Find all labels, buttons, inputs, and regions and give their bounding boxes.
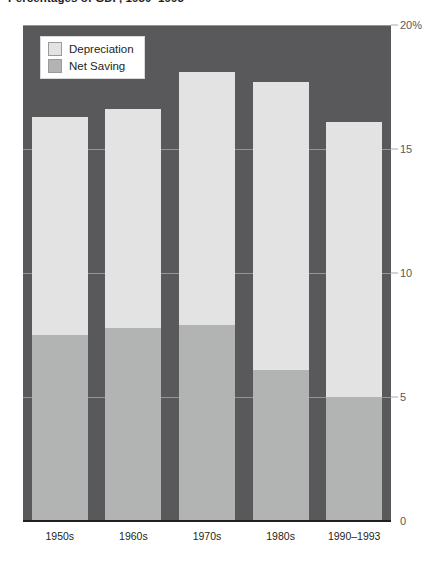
bar-segment-depreciation[interactable]	[32, 117, 88, 335]
bar-segment-net-saving[interactable]	[105, 328, 161, 521]
bar-segment-depreciation[interactable]	[253, 82, 309, 370]
bar-segment-depreciation[interactable]	[326, 122, 382, 397]
legend-item-depreciation: Depreciation	[48, 42, 134, 56]
ytick-label-5: 5	[400, 391, 406, 403]
page-title: Percentages of GDP, 1950–1993	[8, 0, 308, 6]
xtick-label-1950s: 1950s	[23, 530, 97, 542]
ytick-mark-20	[391, 25, 398, 26]
bar-1970s[interactable]	[179, 72, 235, 521]
bar-segment-depreciation[interactable]	[105, 109, 161, 327]
bar-1960s[interactable]	[105, 109, 161, 521]
legend-label-net-saving: Net Saving	[69, 60, 125, 73]
bar-segment-net-saving[interactable]	[326, 397, 382, 521]
chart-legend: Depreciation Net Saving	[40, 36, 145, 79]
xtick-label-1970s: 1970s	[170, 530, 244, 542]
ytick-mark-10	[391, 273, 398, 274]
bar-segment-net-saving[interactable]	[253, 370, 309, 521]
xtick-label-1980s: 1980s	[244, 530, 318, 542]
xtick-label-1960s: 1960s	[97, 530, 171, 542]
ytick-label-15: 15	[400, 143, 412, 155]
chart-page: Percentages of GDP, 1950–1993 05101520%1…	[0, 0, 432, 562]
bar-1980s[interactable]	[253, 82, 309, 521]
bar-1990-1993[interactable]	[326, 122, 382, 521]
gridline-20	[23, 25, 391, 26]
xtick-label-1990-1993: 1990–1993	[317, 530, 391, 542]
legend-item-net-saving: Net Saving	[48, 59, 134, 73]
plot-area	[23, 25, 391, 521]
ytick-mark-5	[391, 397, 398, 398]
ytick-label-20: 20%	[400, 19, 422, 31]
ytick-label-0: 0	[400, 515, 406, 527]
bar-segment-depreciation[interactable]	[179, 72, 235, 325]
legend-swatch-net-saving	[48, 59, 62, 73]
bar-segment-net-saving[interactable]	[32, 335, 88, 521]
bar-segment-net-saving[interactable]	[179, 325, 235, 521]
bar-1950s[interactable]	[32, 117, 88, 521]
legend-swatch-depreciation	[48, 42, 62, 56]
legend-label-depreciation: Depreciation	[69, 43, 134, 56]
ytick-mark-15	[391, 149, 398, 150]
ytick-label-10: 10	[400, 267, 412, 279]
axis-baseline	[23, 520, 391, 522]
